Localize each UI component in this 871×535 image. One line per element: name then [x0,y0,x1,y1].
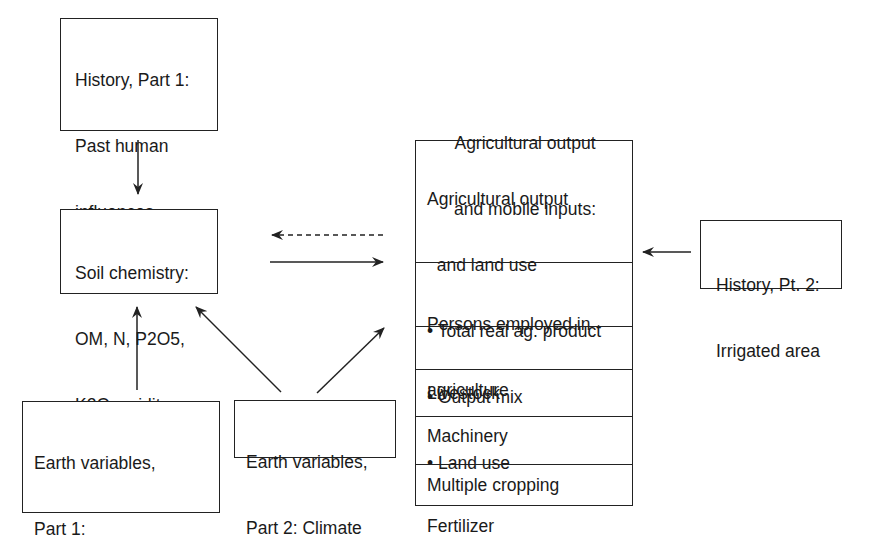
ag-output-inputs-box: Agricultural output and land use • Total… [415,140,633,506]
ag-row-line: Agricultural output [427,188,632,210]
earth-part1-line: Part 1: [34,518,219,535]
arrow-earth2-to-ag [317,328,384,393]
history-part1-line: Past human [75,135,217,157]
history-part2-line: History, Pt. 2: [716,274,841,296]
earth-part2-line: Part 2: Climate [246,517,395,535]
ag-row-line: Fertilizer [427,515,632,535]
history-part1-line: History, Part 1: [75,69,217,91]
soil-chemistry-line: Soil chemistry: [75,262,217,284]
history-part2-line: Irrigated area [716,340,841,362]
soil-chemistry-box: Soil chemistry: OM, N, P2O5, K2O, acidit… [60,209,218,294]
soil-chemistry-line: OM, N, P2O5, [75,328,217,350]
earth-part2-line: Earth variables, [246,451,395,473]
earth-variables-part2-box: Earth variables, Part 2: Climate [234,400,396,458]
ag-row-multiple-cropping: Multiple cropping [416,416,632,464]
ag-row-fertilizer: Fertilizer [416,464,632,506]
ag-row-livestock: Livestock [416,326,632,369]
ag-row-machinery: Machinery [416,369,632,416]
earth-part1-line: Earth variables, [34,452,219,474]
earth-variables-part1-box: Earth variables, Part 1: Geological clas… [22,401,220,513]
ag-row-persons-employed: Persons employed in agriculture [416,262,632,326]
history-part2-box: History, Pt. 2: Irrigated area [700,220,842,289]
ag-row-output-land-use: Agricultural output and land use • Total… [416,141,632,262]
history-part1-box: History, Part 1: Past human influences o… [60,18,218,131]
